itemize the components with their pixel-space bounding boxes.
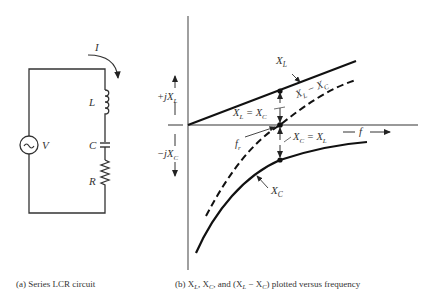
xc-label: XC — [270, 184, 284, 199]
inductor-icon — [105, 90, 109, 142]
eq-leader — [284, 137, 291, 142]
xc-point — [277, 157, 282, 162]
xl-point — [277, 88, 282, 93]
capacitor-icon — [100, 143, 110, 160]
xl-line — [188, 61, 356, 125]
xl-equals-xc-label: XL = XC — [232, 107, 267, 121]
current-label: I — [94, 41, 100, 53]
xc-equals-xl-label: XC = XL — [292, 131, 327, 145]
current-arrow-icon — [88, 55, 118, 78]
resistor-label: R — [88, 175, 96, 187]
xl-leader — [292, 74, 300, 82]
frequency-label: f — [359, 125, 364, 137]
diagram-canvas: I L C R V +jXL −jXC — [0, 0, 439, 298]
resistor-icon — [101, 160, 109, 188]
resonance-point — [277, 122, 283, 128]
caption-a: (a) Series LCR circuit — [16, 279, 96, 289]
resonant-frequency-label: fr — [235, 138, 241, 152]
fr-leader — [245, 127, 275, 137]
xl-label: XL — [275, 54, 287, 69]
ac-source-icon — [20, 136, 38, 154]
minus-jxc-label: −jXC — [157, 148, 178, 162]
series-lcr-circuit: I L C R V — [20, 41, 118, 213]
reactance-plot: +jXL −jXC f XL XL − XC XL = XC XC = XL f… — [157, 16, 418, 270]
capacitor-label: C — [89, 139, 97, 151]
xc-leader — [257, 176, 268, 188]
inductor-label: L — [88, 96, 95, 108]
caption-b: (b) XL, XC, and (XL − XC) plotted versus… — [175, 279, 361, 290]
source-label: V — [42, 139, 50, 151]
plus-jxl-label: +jXL — [157, 91, 177, 105]
